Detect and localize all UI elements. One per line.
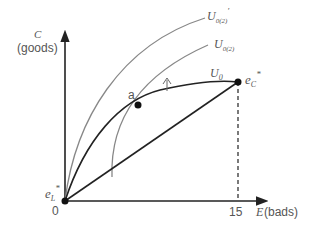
curve-u0-2 xyxy=(112,45,208,177)
budget-line xyxy=(65,82,238,201)
diagram-canvas: C (goods) 0 15 E (bads) a eC* eL* U0 U0(… xyxy=(0,0,311,231)
y-axis-label: (goods) xyxy=(17,41,58,55)
curve-u0-2-prime xyxy=(65,18,205,201)
u0-label: U0 xyxy=(210,66,223,82)
point-e-l xyxy=(62,198,69,205)
x-tick-15: 15 xyxy=(229,205,243,219)
u0-2-prime-label: U0(2)′ xyxy=(207,6,230,25)
point-e-c xyxy=(235,79,242,86)
u0-2-label: U0(2) xyxy=(214,37,235,53)
x-axis-symbol: E xyxy=(255,205,264,219)
origin-label: 0 xyxy=(52,204,59,218)
e-c-label: eC* xyxy=(245,69,261,89)
point-a-label: a xyxy=(128,88,135,102)
y-axis-symbol: C xyxy=(34,28,42,40)
point-a xyxy=(135,102,142,109)
x-axis-label: (bads) xyxy=(264,205,298,219)
e-l-label: eL* xyxy=(45,183,60,203)
